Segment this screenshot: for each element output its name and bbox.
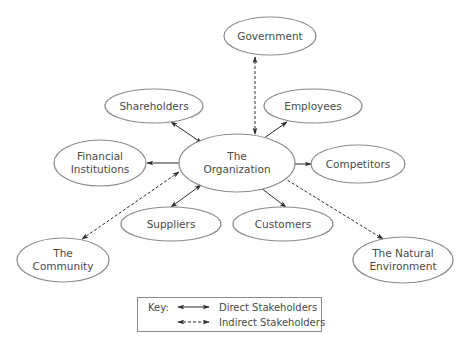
shareholders-label: Shareholders [119,100,188,112]
organization-label-line2: Organization [203,163,270,175]
legend-title: Key: [148,302,169,313]
competitors-label: Competitors [326,158,390,170]
node-financial-institutions: Financial Institutions [54,140,146,186]
node-community: The Community [17,238,109,282]
node-customers: Customers [233,207,333,241]
node-natural-environment: The Natural Environment [353,237,453,283]
customers-label: Customers [255,218,311,230]
node-competitors: Competitors [311,145,405,183]
environment-label-line2: Environment [369,260,436,272]
environment-label-line1: The Natural [371,247,434,259]
financial-label-line2: Institutions [71,163,130,175]
employees-label: Employees [284,100,341,112]
legend-indirect-label: Indirect Stakeholders [219,317,325,328]
legend: Key: Direct Stakeholders Indirect Stakeh… [138,298,326,332]
edge-suppliers [171,185,201,207]
node-shareholders: Shareholders [105,89,203,123]
financial-label-line1: Financial [77,150,123,162]
stakeholder-diagram: Government Shareholders Employees Financ… [0,0,466,346]
node-suppliers: Suppliers [121,207,221,241]
community-label-line2: Community [33,260,94,272]
organization-label-line1: The [226,150,247,162]
legend-direct-label: Direct Stakeholders [219,302,317,313]
community-label-line1: The [52,247,73,259]
edge-shareholders [171,122,202,143]
node-organization: The Organization [179,134,295,192]
node-government: Government [224,17,316,55]
suppliers-label: Suppliers [147,218,196,230]
government-label: Government [237,30,302,42]
node-employees: Employees [264,89,362,123]
